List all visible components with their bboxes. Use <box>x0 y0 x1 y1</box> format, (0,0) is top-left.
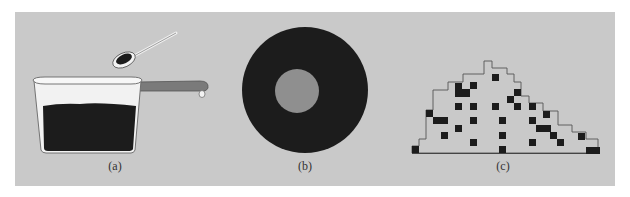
pile-illustration <box>412 61 600 154</box>
pile-outline <box>412 61 598 153</box>
disk-illustration <box>242 27 368 153</box>
panel-a-label: (a) <box>95 159 135 174</box>
black-squares <box>412 74 600 154</box>
pot-handle <box>138 81 208 91</box>
pot-illustration <box>33 33 208 153</box>
inner-circle <box>275 69 319 113</box>
beans <box>43 103 136 151</box>
panel-c-label: (c) <box>483 159 523 174</box>
panel-b-label: (b) <box>285 159 325 174</box>
